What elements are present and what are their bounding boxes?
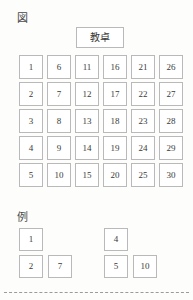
seat-box[interactable]: 15 — [75, 163, 99, 187]
seat-box[interactable]: 12 — [75, 82, 99, 106]
teacher-desk-box: 教卓 — [76, 27, 124, 48]
seat-box[interactable]: 8 — [47, 109, 71, 133]
seat-box[interactable]: 9 — [47, 136, 71, 160]
seat-grid: 1611162126271217222738131823284914192429… — [19, 55, 183, 187]
seat-box[interactable]: 17 — [103, 82, 127, 106]
example-row: 4 — [104, 228, 157, 251]
seat-box[interactable]: 13 — [75, 109, 99, 133]
seat-box[interactable]: 6 — [47, 55, 71, 79]
example-seat-box[interactable]: 5 — [104, 255, 128, 278]
seat-box[interactable]: 29 — [159, 136, 183, 160]
seat-box[interactable]: 4 — [19, 136, 43, 160]
seat-box[interactable]: 25 — [131, 163, 155, 187]
example-seat-box[interactable]: 10 — [133, 255, 157, 278]
example-row: 1 — [19, 228, 72, 251]
seat-box[interactable]: 30 — [159, 163, 183, 187]
seat-box[interactable]: 20 — [103, 163, 127, 187]
seat-box[interactable]: 18 — [103, 109, 127, 133]
figure-caption: 図 — [17, 12, 28, 24]
seat-box[interactable]: 19 — [103, 136, 127, 160]
example-seat-box[interactable]: 7 — [48, 255, 72, 278]
seat-box[interactable]: 27 — [159, 82, 183, 106]
seat-box[interactable]: 22 — [131, 82, 155, 106]
seat-box[interactable]: 14 — [75, 136, 99, 160]
seat-box[interactable]: 10 — [47, 163, 71, 187]
example-row: 27 — [19, 255, 72, 278]
example-row: 510 — [104, 255, 157, 278]
example-caption: 例 — [17, 211, 28, 223]
example-group-b: 4510 — [104, 228, 157, 282]
seat-box[interactable]: 3 — [19, 109, 43, 133]
example-seat-box[interactable]: 4 — [104, 228, 128, 251]
seat-box[interactable]: 11 — [75, 55, 99, 79]
seat-box[interactable]: 7 — [47, 82, 71, 106]
seat-box[interactable]: 21 — [131, 55, 155, 79]
seat-box[interactable]: 1 — [19, 55, 43, 79]
example-area: 127 4510 — [0, 228, 193, 284]
seat-box[interactable]: 23 — [131, 109, 155, 133]
example-seat-box[interactable]: 1 — [19, 228, 43, 251]
bottom-divider — [4, 292, 189, 293]
example-seat-box[interactable]: 2 — [19, 255, 43, 278]
seat-box[interactable]: 16 — [103, 55, 127, 79]
seat-box[interactable]: 5 — [19, 163, 43, 187]
example-group-a: 127 — [19, 228, 72, 282]
seat-box[interactable]: 24 — [131, 136, 155, 160]
seat-box[interactable]: 2 — [19, 82, 43, 106]
figure-page: 図 教卓 16111621262712172227381318232849141… — [0, 0, 193, 300]
seat-box[interactable]: 26 — [159, 55, 183, 79]
seat-box[interactable]: 28 — [159, 109, 183, 133]
